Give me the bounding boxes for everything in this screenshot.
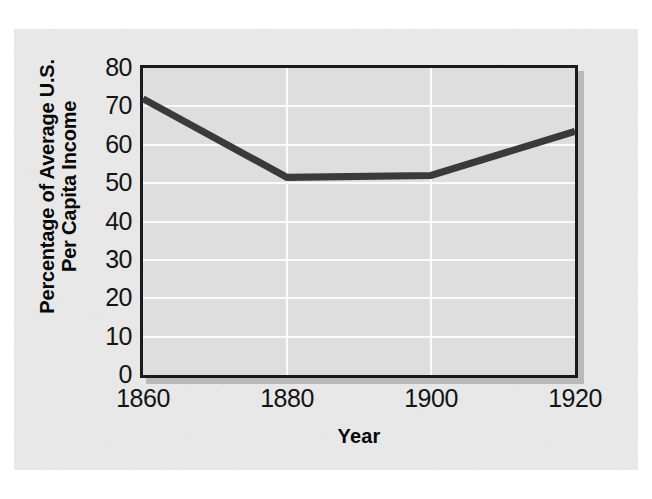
line-chart: 01020304050607080 Percentage of Average … <box>0 0 652 499</box>
y-axis-title-line2: Per Capita Income <box>58 31 80 341</box>
x-axis-tick-label: 1900 <box>376 386 486 411</box>
y-axis-tick-label: 30 <box>88 247 132 272</box>
y-axis-tick-labels: 01020304050607080 <box>86 65 132 378</box>
y-axis-tick-label: 50 <box>88 170 132 195</box>
x-axis-tick-label: 1860 <box>88 386 198 411</box>
y-axis-tick-label: 20 <box>88 285 132 310</box>
plot-area <box>140 65 578 378</box>
y-axis-tick-label: 60 <box>88 132 132 157</box>
y-axis-title-line1: Percentage of Average U.S. <box>36 31 58 341</box>
y-axis-tick-label: 10 <box>88 324 132 349</box>
x-axis-tick-label: 1880 <box>232 386 342 411</box>
data-series-line <box>143 68 575 375</box>
x-axis-title: Year <box>140 425 578 448</box>
y-axis-tick-label: 70 <box>88 93 132 118</box>
x-axis-tick-label: 1920 <box>520 386 630 411</box>
x-axis-tick-labels: 1860188019001920 <box>140 386 578 420</box>
y-axis-tick-label: 80 <box>88 55 132 80</box>
y-axis-title: Percentage of Average U.S. Per Capita In… <box>36 31 81 341</box>
y-axis-tick-label: 40 <box>88 209 132 234</box>
